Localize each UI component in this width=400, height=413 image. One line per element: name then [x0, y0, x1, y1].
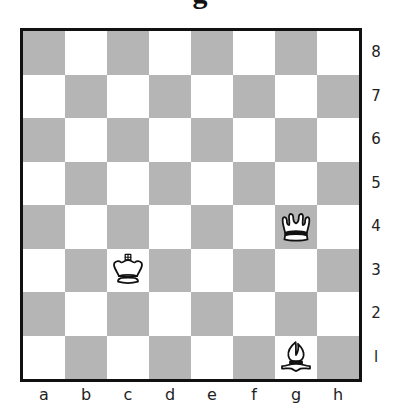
square-a5[interactable] — [23, 162, 65, 206]
square-g5[interactable] — [275, 162, 317, 206]
chess-board — [20, 28, 362, 382]
file-label: e — [191, 381, 233, 409]
square-a2[interactable] — [23, 292, 65, 336]
square-d2[interactable] — [149, 292, 191, 336]
file-label: a — [23, 381, 65, 409]
square-e5[interactable] — [191, 162, 233, 206]
rank-label: l — [368, 336, 384, 380]
square-a1[interactable] — [23, 336, 65, 380]
square-g7[interactable] — [275, 75, 317, 119]
square-c4[interactable] — [107, 205, 149, 249]
square-h5[interactable] — [317, 162, 359, 206]
square-h8[interactable] — [317, 31, 359, 75]
rank-label: 4 — [368, 205, 384, 249]
square-g3[interactable] — [275, 249, 317, 293]
white-king-icon[interactable] — [110, 252, 146, 288]
square-f8[interactable] — [233, 31, 275, 75]
square-f1[interactable] — [233, 336, 275, 380]
square-b2[interactable] — [65, 292, 107, 336]
square-d3[interactable] — [149, 249, 191, 293]
square-a3[interactable] — [23, 249, 65, 293]
square-c8[interactable] — [107, 31, 149, 75]
square-h2[interactable] — [317, 292, 359, 336]
rank-label: 8 — [368, 31, 384, 75]
square-f7[interactable] — [233, 75, 275, 119]
square-g8[interactable] — [275, 31, 317, 75]
white-queen-icon[interactable] — [278, 209, 314, 245]
square-g1[interactable] — [275, 336, 317, 380]
square-e1[interactable] — [191, 336, 233, 380]
square-d7[interactable] — [149, 75, 191, 119]
square-g6[interactable] — [275, 118, 317, 162]
square-d1[interactable] — [149, 336, 191, 380]
square-e6[interactable] — [191, 118, 233, 162]
square-g2[interactable] — [275, 292, 317, 336]
square-b3[interactable] — [65, 249, 107, 293]
square-d8[interactable] — [149, 31, 191, 75]
file-label: b — [65, 381, 107, 409]
rank-label: 7 — [368, 75, 384, 119]
square-f6[interactable] — [233, 118, 275, 162]
square-b8[interactable] — [65, 31, 107, 75]
square-d5[interactable] — [149, 162, 191, 206]
square-e8[interactable] — [191, 31, 233, 75]
square-c5[interactable] — [107, 162, 149, 206]
square-a7[interactable] — [23, 75, 65, 119]
white-bishop-icon[interactable] — [278, 339, 314, 375]
square-e4[interactable] — [191, 205, 233, 249]
file-label: g — [275, 381, 317, 409]
square-h4[interactable] — [317, 205, 359, 249]
square-c2[interactable] — [107, 292, 149, 336]
file-label: f — [233, 381, 275, 409]
rank-label: 3 — [368, 249, 384, 293]
rank-label: 6 — [368, 118, 384, 162]
square-c3[interactable] — [107, 249, 149, 293]
square-c6[interactable] — [107, 118, 149, 162]
square-f5[interactable] — [233, 162, 275, 206]
square-d4[interactable] — [149, 205, 191, 249]
square-h1[interactable] — [317, 336, 359, 380]
square-a8[interactable] — [23, 31, 65, 75]
square-f3[interactable] — [233, 249, 275, 293]
square-b7[interactable] — [65, 75, 107, 119]
file-label: c — [107, 381, 149, 409]
square-f2[interactable] — [233, 292, 275, 336]
square-b6[interactable] — [65, 118, 107, 162]
square-b1[interactable] — [65, 336, 107, 380]
square-a6[interactable] — [23, 118, 65, 162]
square-h7[interactable] — [317, 75, 359, 119]
square-e3[interactable] — [191, 249, 233, 293]
square-h6[interactable] — [317, 118, 359, 162]
square-h3[interactable] — [317, 249, 359, 293]
square-b4[interactable] — [65, 205, 107, 249]
rank-label: 2 — [368, 292, 384, 336]
diagram-title: g — [0, 0, 400, 12]
square-d6[interactable] — [149, 118, 191, 162]
file-label: d — [149, 381, 191, 409]
square-c7[interactable] — [107, 75, 149, 119]
square-a4[interactable] — [23, 205, 65, 249]
square-e7[interactable] — [191, 75, 233, 119]
square-b5[interactable] — [65, 162, 107, 206]
file-label: h — [317, 381, 359, 409]
square-g4[interactable] — [275, 205, 317, 249]
square-c1[interactable] — [107, 336, 149, 380]
square-e2[interactable] — [191, 292, 233, 336]
rank-label: 5 — [368, 162, 384, 206]
square-f4[interactable] — [233, 205, 275, 249]
